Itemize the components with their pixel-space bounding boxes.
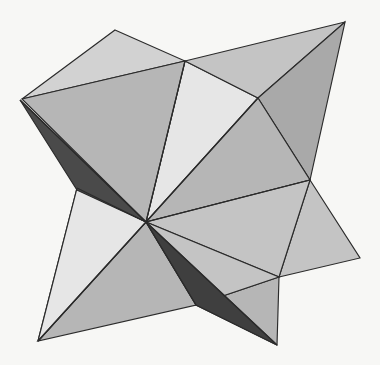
polyhedron-illustration: [0, 0, 380, 365]
polyhedron-figure: [0, 0, 380, 365]
